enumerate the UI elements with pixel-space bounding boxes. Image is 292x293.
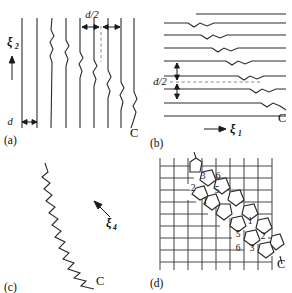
cell-number-6-upper: 6 xyxy=(216,171,221,181)
panel-d-caption: (d) xyxy=(150,277,164,290)
panel-a-dhalf-label: d/2 xyxy=(85,9,99,20)
panel-a-d-annotation xyxy=(22,120,37,125)
cell-number-1-upper: 1 xyxy=(203,196,208,206)
panel-a: d/2 d ξ 2 C (a) xyxy=(0,0,146,146)
panel-c-curve-label: C xyxy=(96,274,104,288)
panel-b-direction-arrow xyxy=(204,126,226,132)
panel-c-xi-symbol: ξ xyxy=(106,216,112,230)
panel-b-dhalf-label: d/2 xyxy=(153,76,167,87)
panel-c-xi-subscript: 4 xyxy=(112,223,117,232)
panel-c-direction-arrow xyxy=(94,201,110,217)
figure-four-panel-defect-diagram: d/2 d ξ 2 C (a) xyxy=(0,0,292,293)
panel-c-caption: (c) xyxy=(4,281,17,293)
cell-number-1-lower: 1 xyxy=(248,216,253,226)
cell-number-5-upper: 5 xyxy=(215,185,220,195)
panel-a-direction-arrow xyxy=(9,56,15,80)
panel-c-zigzag-line xyxy=(42,163,94,289)
panel-b-curve-label: C xyxy=(278,111,286,125)
cell-number-3-upper: 3 xyxy=(201,171,206,181)
cell-number-5-lower: 5 xyxy=(236,229,241,239)
panel-d: 3 6 2 5 1 1 5 2 6 3 C (d) xyxy=(146,148,292,293)
panel-b-xi-subscript: 1 xyxy=(238,129,242,138)
panel-b-dhalf-annotation xyxy=(175,63,180,99)
panel-a-lines xyxy=(22,18,137,128)
cell-number-3-lower: 3 xyxy=(250,243,255,253)
cell-number-6-lower: 6 xyxy=(236,243,241,253)
panel-a-curve-label: C xyxy=(130,126,138,140)
panel-b-lines xyxy=(164,14,286,116)
panel-b: d/2 ξ 1 C (b) xyxy=(146,0,292,150)
cell-number-2-lower: 2 xyxy=(261,231,266,241)
panel-a-xi-symbol: ξ xyxy=(7,35,13,49)
panel-d-curve-label: C xyxy=(277,257,285,271)
panel-a-xi-subscript: 2 xyxy=(14,42,19,51)
panel-b-xi-symbol: ξ xyxy=(230,122,236,136)
panel-c: ξ 4 C (c) xyxy=(0,145,146,293)
cell-number-2-upper: 2 xyxy=(191,183,196,193)
panel-a-d-label: d xyxy=(7,116,13,127)
